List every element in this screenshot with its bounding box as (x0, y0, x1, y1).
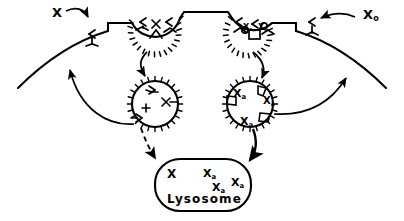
diagram-canvas (0, 0, 404, 221)
coated-pit-left (128, 16, 183, 57)
lysosome-label: Lysosome (167, 193, 242, 205)
plasma-membrane (18, 12, 386, 88)
lysosome-content-label-1: X (167, 168, 176, 180)
pit-right-ligand-label-2: Xo (258, 24, 268, 32)
lysosome-content-label-2: Xa (203, 168, 216, 179)
arrow-to-lysosome-left-dashed (141, 128, 155, 158)
ligand-label-extracellular-right: Xo (363, 8, 379, 21)
ligand-label-extracellular-left: X (52, 6, 62, 19)
pit-right-ligand-label-1: Xo (243, 24, 253, 32)
coated-vesicle-left (127, 76, 182, 131)
endocytosis-diagram: X Xo Xo Xo Xa Xa Xa X Xa Xa Xa Lysosome (0, 0, 404, 221)
vesicle-right-ligand-label-3: Xa (240, 116, 253, 127)
membrane-receptor-left-bound-2 (150, 20, 162, 38)
vesicle-right-ligand-label-2: Xa (263, 96, 275, 106)
arrow-internalization-left (141, 52, 147, 76)
membrane-receptor-right-empty (306, 18, 318, 35)
arrow-recycling-left (70, 70, 134, 124)
vesicle-left-receptor-3 (142, 104, 150, 112)
arrow-to-lysosome-right-solid (250, 129, 256, 160)
arrow-ligand-binding-left (66, 9, 88, 17)
arrow-ligand-binding-right (321, 14, 355, 18)
vesicle-left-receptor-1 (146, 86, 158, 94)
arrow-recycling-right (274, 78, 346, 114)
vesicle-right-ligand-label-1: Xa (233, 88, 246, 99)
lysosome-content-label-4: Xa (231, 177, 244, 188)
membrane-receptor-left-bound-1 (136, 18, 148, 30)
membrane-receptor-left-bound-3 (164, 18, 176, 32)
vesicle-left-receptor-2 (162, 98, 178, 106)
